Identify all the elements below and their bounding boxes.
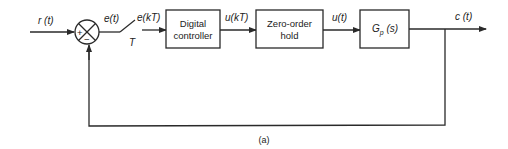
digital-controller-label-2: controller [173,30,212,41]
block-diagram: r (t) + − e(t) T e(kT) Digital controlle… [0,0,508,149]
sampler-period-label: T [129,37,136,48]
error-signal-label: e(t) [104,13,119,24]
zoh-label-1: Zero-order [267,18,312,29]
zero-order-hold-block: Zero-order hold [256,10,323,48]
zoh-label-2: hold [281,30,299,41]
hold-output-label: u(t) [332,12,347,23]
plant-block: Gp (s) [360,10,409,48]
input-signal-label: r (t) [38,15,54,26]
figure-caption: (a) [259,135,270,145]
output-signal-label: c (t) [455,11,472,22]
digital-controller-block: Digital controller [166,10,220,48]
minus-sign: − [84,34,90,45]
sampled-error-label: e(kT) [137,12,160,23]
plus-sign: + [77,27,83,38]
digital-controller-label-1: Digital [180,18,206,29]
controller-output-label: u(kT) [225,12,248,23]
sampler-switch [120,20,135,32]
summing-junction: + − [75,20,99,45]
